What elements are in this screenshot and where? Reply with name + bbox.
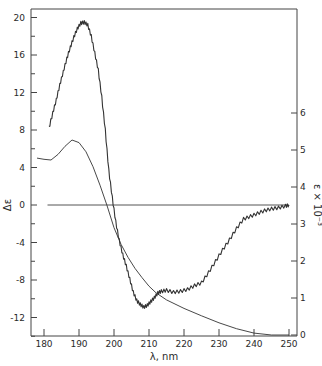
- left-tick-label: 16: [14, 50, 26, 60]
- x-axis: 180190200210220230240250: [35, 329, 297, 349]
- left-tick-label: 4: [19, 163, 25, 173]
- right-y-axis: 0123456: [291, 108, 306, 340]
- x-tick-label: 200: [105, 339, 122, 349]
- absorption-curve: [37, 140, 289, 335]
- right-tick-label: 2: [300, 256, 306, 266]
- right-tick-label: 4: [300, 182, 306, 192]
- left-tick-label: -12: [10, 313, 25, 323]
- x-tick-label: 220: [175, 339, 192, 349]
- left-tick-label: 20: [14, 13, 26, 23]
- x-tick-label: 190: [70, 339, 87, 349]
- y2-axis-title: ε × 10⁻³: [312, 184, 322, 226]
- x-tick-label: 250: [280, 339, 297, 349]
- right-tick-label: 3: [300, 219, 306, 229]
- right-tick-label: 0: [300, 330, 306, 340]
- x-tick-label: 180: [35, 339, 52, 349]
- left-tick-label: 12: [14, 88, 25, 98]
- right-tick-label: 1: [300, 293, 306, 303]
- right-tick-label: 5: [300, 145, 306, 155]
- x-tick-label: 210: [140, 339, 157, 349]
- left-tick-label: 0: [19, 200, 25, 210]
- cd-absorption-chart: 201612840-4-8-12 0123456 180190200210220…: [0, 0, 322, 366]
- x-axis-title: λ, nm: [150, 351, 178, 362]
- plot-frame: [31, 9, 297, 336]
- left-tick-label: 8: [19, 125, 25, 135]
- x-tick-label: 240: [245, 339, 262, 349]
- left-y-axis: 201612840-4-8-12: [10, 13, 37, 337]
- cd-curve: [49, 21, 289, 309]
- series-layer: [37, 21, 289, 336]
- right-tick-label: 6: [300, 108, 306, 118]
- y-axis-title: Δε: [2, 199, 13, 211]
- x-tick-label: 230: [210, 339, 227, 349]
- left-tick-label: -4: [16, 238, 25, 248]
- left-tick-label: -8: [16, 275, 25, 285]
